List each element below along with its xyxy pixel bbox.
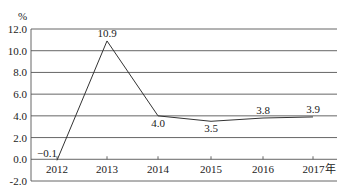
y-axis-ticks: 12.010.08.06.04.02.00.0-2.0 [8, 23, 28, 187]
x-tick-label: 2013 [96, 163, 119, 175]
data-label: 3.9 [306, 103, 320, 115]
data-labels: −0.110.94.03.53.83.9 [37, 27, 320, 159]
x-tick-label: 2016 [252, 163, 275, 175]
grid-lines [31, 29, 337, 181]
y-tick-label: 4.0 [13, 110, 27, 122]
x-tick-label: 2017年 [303, 162, 336, 175]
data-line [57, 41, 313, 160]
y-tick-label: 2.0 [13, 132, 27, 144]
data-label: 4.0 [151, 117, 165, 129]
y-tick-label: -2.0 [10, 175, 28, 187]
y-tick-label: 12.0 [8, 23, 28, 35]
data-label: 10.9 [97, 27, 117, 39]
x-tick-label: 2012 [46, 163, 68, 175]
data-label: 3.5 [204, 122, 218, 134]
y-tick-label: 8.0 [13, 66, 27, 78]
data-label: 3.8 [256, 104, 270, 116]
y-axis-unit: % [18, 10, 27, 22]
line-chart: 12.010.08.06.04.02.00.0-2.0 201220132014… [0, 0, 348, 194]
y-tick-label: 0.0 [13, 153, 27, 165]
x-tick-label: 2014 [147, 163, 170, 175]
y-tick-label: 6.0 [13, 88, 27, 100]
y-tick-label: 10.0 [8, 45, 28, 57]
data-label: −0.1 [37, 147, 57, 159]
x-tick-label: 2015 [200, 163, 223, 175]
